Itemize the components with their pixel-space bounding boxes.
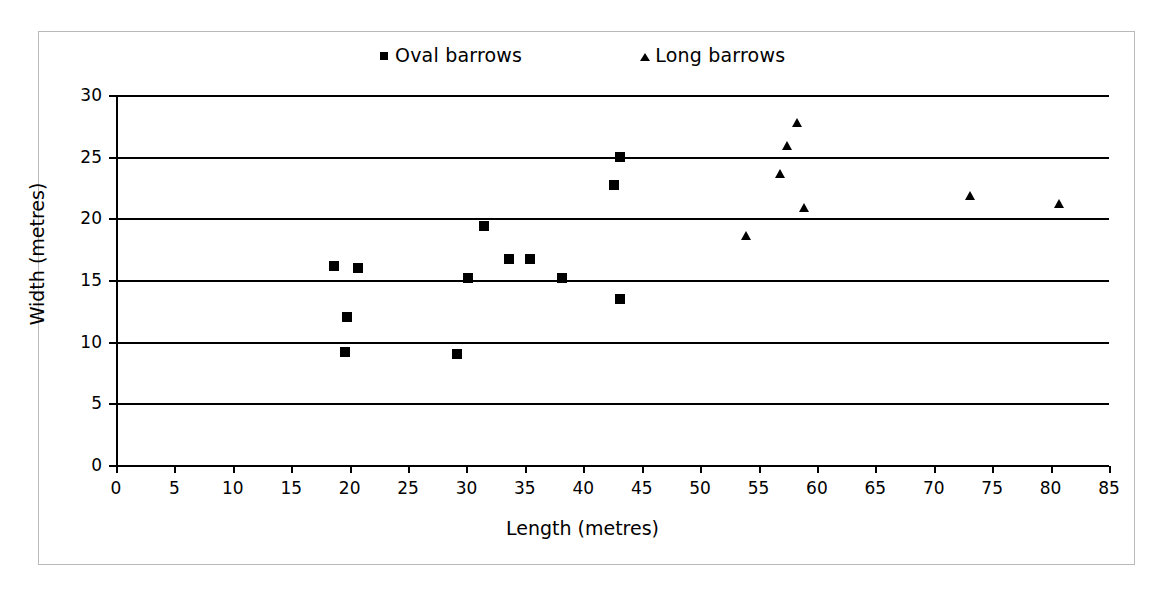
x-tick-label: 25 xyxy=(388,478,428,498)
data-point-long-barrow xyxy=(965,191,975,200)
x-tick-label: 75 xyxy=(972,478,1012,498)
y-tick xyxy=(109,280,116,282)
data-point-oval-barrow xyxy=(557,273,567,283)
y-tick-label: 10 xyxy=(52,332,102,352)
x-axis-line xyxy=(116,465,1109,467)
x-tick-label: 80 xyxy=(1031,478,1071,498)
x-axis-label: Length (metres) xyxy=(0,517,1165,539)
x-tick xyxy=(642,466,644,473)
x-tick xyxy=(525,466,527,473)
x-tick xyxy=(1051,466,1053,473)
x-tick-label: 50 xyxy=(680,478,720,498)
gridline xyxy=(116,157,1109,159)
data-point-long-barrow xyxy=(799,203,809,212)
x-tick xyxy=(759,466,761,473)
data-point-oval-barrow xyxy=(615,152,625,162)
x-tick xyxy=(875,466,877,473)
x-tick-label: 30 xyxy=(446,478,486,498)
gridline xyxy=(116,403,1109,405)
data-point-oval-barrow xyxy=(353,263,363,273)
x-tick-label: 35 xyxy=(505,478,545,498)
y-tick-label: 5 xyxy=(52,393,102,413)
triangle-marker-icon xyxy=(640,53,650,61)
data-point-oval-barrow xyxy=(504,254,514,264)
legend-item-long-barrows: Long barrows xyxy=(640,44,785,66)
y-tick-label: 20 xyxy=(52,208,102,228)
x-tick-label: 0 xyxy=(96,478,136,498)
x-tick-label: 20 xyxy=(330,478,370,498)
data-point-oval-barrow xyxy=(479,221,489,231)
x-tick xyxy=(116,466,118,473)
x-tick xyxy=(466,466,468,473)
gridline xyxy=(116,95,1109,97)
data-point-oval-barrow xyxy=(463,273,473,283)
square-marker-icon xyxy=(380,52,388,60)
x-tick xyxy=(700,466,702,473)
y-tick xyxy=(109,157,116,159)
data-point-oval-barrow xyxy=(342,312,352,322)
x-tick xyxy=(817,466,819,473)
legend-label-oval-barrows: Oval barrows xyxy=(395,44,522,66)
data-point-long-barrow xyxy=(792,118,802,127)
x-tick xyxy=(934,466,936,473)
x-tick-label: 10 xyxy=(213,478,253,498)
y-tick xyxy=(109,403,116,405)
x-tick xyxy=(233,466,235,473)
x-tick-label: 45 xyxy=(622,478,662,498)
x-tick-label: 70 xyxy=(914,478,954,498)
gridline xyxy=(116,280,1109,282)
y-tick xyxy=(109,218,116,220)
data-point-oval-barrow xyxy=(525,254,535,264)
y-tick-label: 0 xyxy=(52,455,102,475)
data-point-oval-barrow xyxy=(329,261,339,271)
y-axis-label: Width (metres) xyxy=(26,144,48,364)
plot-area xyxy=(116,95,1109,465)
x-tick-label: 55 xyxy=(739,478,779,498)
y-tick xyxy=(109,95,116,97)
y-tick xyxy=(109,465,116,467)
data-point-oval-barrow xyxy=(340,347,350,357)
x-tick xyxy=(291,466,293,473)
x-tick xyxy=(408,466,410,473)
y-tick-label: 15 xyxy=(52,270,102,290)
legend-item-oval-barrows: Oval barrows xyxy=(380,44,522,66)
y-tick xyxy=(109,342,116,344)
y-tick-label: 30 xyxy=(52,85,102,105)
x-tick-label: 60 xyxy=(797,478,837,498)
x-tick xyxy=(583,466,585,473)
data-point-long-barrow xyxy=(775,169,785,178)
x-tick-label: 15 xyxy=(271,478,311,498)
data-point-long-barrow xyxy=(1054,199,1064,208)
gridline xyxy=(116,342,1109,344)
x-tick-label: 40 xyxy=(563,478,603,498)
data-point-oval-barrow xyxy=(452,349,462,359)
x-tick xyxy=(992,466,994,473)
x-tick xyxy=(174,466,176,473)
x-tick xyxy=(350,466,352,473)
data-point-long-barrow xyxy=(741,231,751,240)
chart-legend: Oval barrows Long barrows xyxy=(380,40,800,70)
gridline xyxy=(116,218,1109,220)
data-point-long-barrow xyxy=(782,141,792,150)
data-point-oval-barrow xyxy=(615,294,625,304)
y-tick-label: 25 xyxy=(52,147,102,167)
x-tick-label: 5 xyxy=(154,478,194,498)
x-tick-label: 65 xyxy=(855,478,895,498)
data-point-oval-barrow xyxy=(609,180,619,190)
legend-label-long-barrows: Long barrows xyxy=(655,44,785,66)
x-tick-label: 85 xyxy=(1089,478,1129,498)
chart-page: Oval barrows Long barrows 051015202530 0… xyxy=(0,0,1165,597)
x-tick xyxy=(1109,466,1111,473)
